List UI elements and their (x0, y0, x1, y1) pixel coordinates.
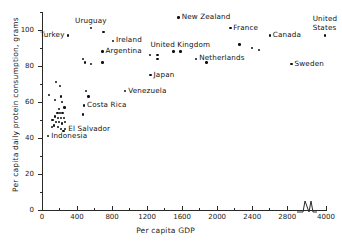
data-point-canada (269, 34, 271, 36)
data-point (90, 63, 92, 65)
data-point-ireland (112, 40, 114, 42)
data-point-sweden (290, 63, 292, 65)
data-point (55, 81, 57, 83)
x-tick-label: 1200 (130, 213, 164, 221)
data-point-france (229, 27, 231, 29)
x-tick-minor (234, 208, 235, 211)
y-axis-title: Per capita daily protein consumption, gr… (11, 2, 20, 208)
data-point-label: Turkey (40, 31, 64, 39)
x-tick-label: 1600 (165, 213, 199, 221)
data-point-united-kingdom (179, 50, 181, 52)
y-tick-major (38, 174, 43, 175)
data-point (172, 50, 174, 52)
data-point (156, 54, 158, 56)
x-tick-label: 400 (60, 213, 94, 221)
data-point-label: Sweden (295, 60, 324, 68)
data-point-label: Ireland (116, 36, 142, 44)
data-point (55, 121, 57, 123)
data-point-japan (149, 74, 151, 76)
data-point-label: New Zealand (182, 13, 231, 21)
data-point (60, 117, 62, 119)
data-point (58, 108, 60, 110)
y-tick-minor (40, 12, 43, 13)
x-axis-break-icon (296, 199, 318, 213)
data-point (258, 49, 260, 51)
y-tick-minor (40, 156, 43, 157)
data-point-label: France (233, 24, 258, 32)
x-tick-major (42, 206, 43, 211)
x-tick-minor (94, 208, 95, 211)
data-point-label: Uruguay (75, 17, 107, 25)
x-tick-minor (199, 208, 200, 211)
data-point (48, 94, 50, 96)
y-axis-line (42, 12, 43, 211)
data-point-label: Indonesia (51, 132, 87, 140)
x-tick-minor (269, 208, 270, 211)
y-tick-minor (40, 48, 43, 49)
data-point-united-states (324, 34, 326, 36)
data-point-label: United Kingdom (150, 41, 210, 49)
data-point-label: Netherlands (199, 54, 244, 62)
data-point (82, 58, 84, 60)
data-point-turkey (67, 34, 69, 36)
x-tick-major (147, 206, 148, 211)
data-point (149, 54, 151, 56)
data-point-argentina (101, 50, 103, 52)
x-tick-label: 2800 (270, 213, 304, 221)
data-point (51, 126, 53, 128)
data-point-venezuela (124, 90, 126, 92)
x-tick-major (217, 206, 218, 211)
data-point-costa-rica (83, 104, 85, 106)
data-point (156, 58, 158, 60)
data-point (101, 61, 103, 63)
x-tick-major (112, 206, 113, 211)
data-point-label: Venezuela (128, 87, 166, 95)
data-point (63, 106, 65, 108)
data-point-label: Argentina (105, 47, 141, 55)
x-tick-major (326, 206, 327, 211)
x-tick-label: 0 (25, 213, 59, 221)
data-point (85, 90, 87, 92)
y-tick-major (38, 138, 43, 139)
x-tick-label: 2000 (200, 213, 234, 221)
y-tick-minor (40, 192, 43, 193)
data-point (59, 85, 61, 87)
data-point-label: Japan (154, 71, 175, 79)
x-tick-major (182, 206, 183, 211)
data-point-indonesia (47, 135, 49, 137)
x-axis-title: Per capita GDP (0, 226, 331, 235)
data-point (61, 101, 63, 103)
data-point (63, 117, 65, 119)
x-tick-major (77, 206, 78, 211)
data-point (61, 112, 63, 114)
data-point (87, 95, 89, 97)
y-tick-major (38, 102, 43, 103)
data-point-netherlands (195, 58, 197, 60)
data-point (53, 124, 55, 126)
data-point (64, 121, 66, 123)
data-point (58, 121, 60, 123)
data-point-label: Costa Rica (87, 101, 127, 109)
data-point (54, 99, 56, 101)
data-point (84, 61, 86, 63)
x-tick-minor (59, 208, 60, 211)
x-tick-label: 4000 (309, 213, 342, 221)
data-point-label: Canada (273, 31, 301, 39)
x-tick-major (252, 206, 253, 211)
x-tick-label: 800 (95, 213, 129, 221)
data-point (61, 122, 63, 124)
data-point (60, 95, 62, 97)
x-axis-line (42, 210, 326, 211)
data-point (238, 43, 240, 45)
data-point (54, 115, 56, 117)
x-tick-minor (129, 208, 130, 211)
x-tick-minor (164, 208, 165, 211)
data-point (251, 47, 253, 49)
data-point-label: United States (313, 15, 338, 32)
y-tick-minor (40, 120, 43, 121)
x-tick-label: 2400 (235, 213, 269, 221)
data-point (82, 113, 84, 115)
y-tick-major (38, 66, 43, 67)
y-tick-minor (40, 84, 43, 85)
x-tick-major (287, 206, 288, 211)
